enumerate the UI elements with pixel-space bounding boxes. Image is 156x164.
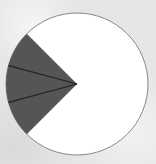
diagram-canvas xyxy=(0,0,156,164)
circle-diagram xyxy=(0,0,156,164)
